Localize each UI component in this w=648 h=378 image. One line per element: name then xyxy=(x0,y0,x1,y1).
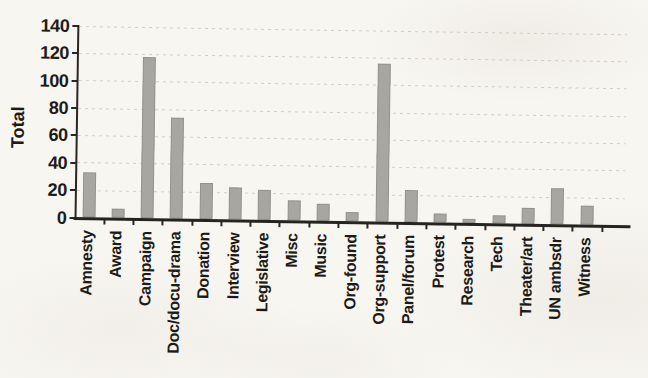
bar-un-ambsdr xyxy=(551,188,565,225)
x-category-label-witness: Witness xyxy=(574,237,593,378)
y-tick-mark-80 xyxy=(71,107,77,109)
y-axis-ticks: 020406080100120140 xyxy=(2,0,648,5)
x-category-label-tech: Tech xyxy=(486,236,505,378)
x-axis-category-labels: AmnestyAwardCampaignDoc/docu-dramaDonati… xyxy=(2,0,648,5)
x-tick-mark-10 xyxy=(396,224,398,229)
gridline-40 xyxy=(77,162,625,171)
x-tick-mark-17 xyxy=(601,227,603,232)
y-tick-mark-140 xyxy=(72,25,78,27)
bar-campaign xyxy=(141,57,156,219)
x-category-label-doc-docu-drama: Doc/docu-drama xyxy=(164,231,183,378)
gridline-140 xyxy=(79,26,627,35)
y-tick-mark-20 xyxy=(70,189,76,191)
x-tick-mark-15 xyxy=(543,226,545,231)
x-tick-mark-1 xyxy=(132,220,134,225)
x-tick-mark-7 xyxy=(308,223,310,228)
y-tick-mark-100 xyxy=(72,80,78,82)
bar-witness xyxy=(580,206,593,225)
y-tick-mark-120 xyxy=(72,52,78,54)
x-category-label-music: Music xyxy=(310,233,329,378)
gridline-120 xyxy=(79,53,627,62)
x-category-label-org-found: Org-found xyxy=(340,234,359,378)
gridline-60 xyxy=(78,135,626,144)
y-tick-mark-0 xyxy=(70,216,76,218)
x-category-label-protest: Protest xyxy=(428,235,447,378)
y-tick-label-60: 60 xyxy=(28,126,68,145)
x-tick-mark-12 xyxy=(455,225,457,230)
x-category-label-un-ambsdr: UN ambsdr xyxy=(545,237,564,378)
x-category-label-campaign: Campaign xyxy=(135,230,154,378)
bar-org-support xyxy=(375,63,390,222)
x-tick-mark-16 xyxy=(572,226,574,231)
bar-donation xyxy=(199,182,213,219)
x-tick-mark-9 xyxy=(367,223,369,228)
x-tick-mark-6 xyxy=(279,222,281,227)
y-tick-label-0: 0 xyxy=(26,208,66,227)
x-tick-mark-14 xyxy=(513,226,515,231)
y-tick-label-80: 80 xyxy=(28,98,68,117)
x-category-label-donation: Donation xyxy=(193,231,212,378)
x-category-label-research: Research xyxy=(457,235,476,378)
gridline-100 xyxy=(79,80,627,89)
bar-doc-docu-drama xyxy=(170,118,185,219)
bar-misc xyxy=(287,200,300,221)
x-category-label-award: Award xyxy=(105,230,124,378)
gridline-80 xyxy=(78,108,626,117)
bar-legislative xyxy=(258,190,271,220)
bar-panel-forum xyxy=(404,190,417,223)
x-tick-mark-13 xyxy=(484,225,486,230)
y-tick-label-140: 140 xyxy=(29,16,69,35)
y-axis-title: Total xyxy=(8,87,28,167)
x-axis-ticks xyxy=(2,0,648,5)
x-category-label-org-support: Org-support xyxy=(369,234,388,378)
y-tick-label-40: 40 xyxy=(27,153,67,172)
bar-amnesty xyxy=(82,173,96,218)
x-category-label-misc: Misc xyxy=(281,233,300,378)
bar-chart: 020406080100120140 AmnestyAwardCampaignD… xyxy=(0,0,648,378)
x-tick-mark-8 xyxy=(337,223,339,228)
x-category-label-legislative: Legislative xyxy=(252,232,271,378)
y-tick-mark-40 xyxy=(70,162,76,164)
x-category-label-theater-art: Theater/art xyxy=(516,236,535,378)
gridlines-layer xyxy=(2,0,648,5)
x-tick-mark-4 xyxy=(220,221,222,226)
bars-layer xyxy=(2,0,648,5)
x-tick-mark-0 xyxy=(103,219,105,224)
x-category-label-interview: Interview xyxy=(223,232,242,378)
scanned-page: { "figure": { "background_color": "#f8f6… xyxy=(0,0,648,378)
gridline-20 xyxy=(77,190,625,199)
y-tick-mark-60 xyxy=(71,134,77,136)
x-category-label-amnesty: Amnesty xyxy=(76,230,95,378)
x-tick-mark-11 xyxy=(425,224,427,229)
x-category-label-panel-forum: Panel/forum xyxy=(398,234,417,378)
x-tick-mark-2 xyxy=(162,220,164,225)
bar-music xyxy=(316,203,329,221)
bar-interview xyxy=(229,187,242,220)
x-tick-mark-5 xyxy=(250,222,252,227)
y-tick-label-120: 120 xyxy=(29,44,69,63)
y-tick-label-20: 20 xyxy=(27,181,67,200)
y-tick-label-100: 100 xyxy=(28,71,68,90)
x-tick-mark-3 xyxy=(191,221,193,226)
bar-theater-art xyxy=(521,208,534,225)
